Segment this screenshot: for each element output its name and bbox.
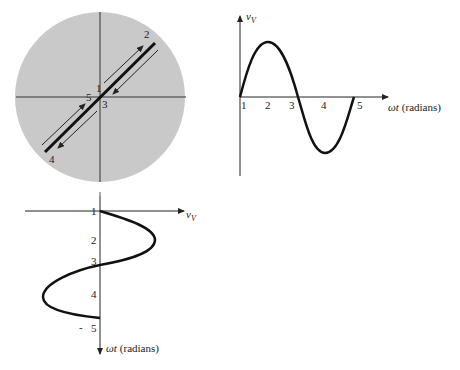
rotated-v-axis-label: ωt(radians) — [106, 342, 159, 355]
rotated-sine-curve — [43, 211, 155, 318]
rotated-tick-4: 4 — [91, 288, 97, 300]
waveform-tick-4: 4 — [321, 99, 327, 111]
rotated-tick-3: 3 — [91, 255, 97, 267]
rotated-tick-2: 2 — [91, 234, 97, 246]
waveform-plot: vV 1 2 3 4 5 ωt(radians) — [240, 10, 441, 176]
rotated-dash-mark: - — [79, 321, 83, 333]
waveform-x-axis-label: ωt(radians) — [388, 101, 441, 114]
circle-label-2: 2 — [144, 28, 150, 40]
rotated-waveform-plot: vV 1 2 3 4 5 - ωt(radians) — [25, 196, 197, 355]
rotated-h-axis-label: vV — [186, 208, 197, 223]
waveform-tick-5: 5 — [357, 99, 363, 111]
rotated-tick-1: 1 — [91, 205, 97, 217]
diagram-canvas: 1 2 3 4 5 vV 1 2 3 4 5 ωt(radians) vV 1 … — [0, 0, 460, 370]
circle-label-4: 4 — [49, 153, 55, 165]
circle-label-3: 3 — [102, 98, 108, 110]
rotated-tick-5: 5 — [91, 322, 97, 334]
circle-label-1: 1 — [96, 82, 102, 94]
waveform-tick-3: 3 — [289, 99, 295, 111]
circle-label-5: 5 — [86, 91, 92, 103]
phasor-circle-diagram: 1 2 3 4 5 — [15, 12, 186, 196]
waveform-y-axis-label: vV — [246, 10, 257, 25]
waveform-tick-2: 2 — [265, 99, 271, 111]
waveform-tick-1: 1 — [241, 99, 247, 111]
